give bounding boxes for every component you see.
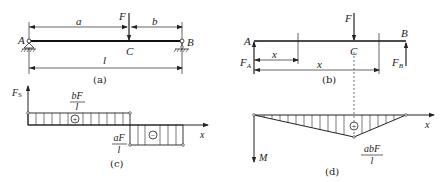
label-fb: FB	[391, 56, 404, 70]
label-point-b: B	[401, 27, 408, 39]
m-axis-label: M	[258, 152, 268, 163]
caption-c: (c)	[110, 158, 124, 169]
label-point-b: B	[187, 36, 194, 48]
caption-b: (b)	[322, 74, 336, 85]
plus-sign-icon: +	[71, 115, 79, 124]
svg-text:bF: bF	[71, 90, 83, 101]
figure-b: F A B C FA FB x x (b)	[239, 12, 408, 85]
x-axis-label: x	[199, 129, 205, 140]
svg-text:−: −	[151, 131, 156, 140]
svg-text:aF: aF	[113, 132, 125, 143]
figure-a: a b F A B C l (a)	[17, 10, 194, 85]
label-x-outer: x	[316, 58, 322, 70]
svg-text:+: +	[73, 115, 78, 124]
label-f: F	[344, 12, 352, 24]
shear-positive-value: bF l	[70, 90, 85, 112]
svg-text:+: +	[352, 122, 357, 131]
svg-text:l: l	[118, 144, 121, 155]
shear-negative-value: aF l	[112, 132, 127, 155]
label-x-inner: x	[271, 48, 277, 60]
fs-axis-label: FS	[11, 87, 22, 99]
caption-a: (a)	[93, 74, 107, 85]
label-point-c: C	[350, 45, 358, 57]
x-axis-label: x	[424, 119, 430, 130]
label-point-a: A	[17, 34, 25, 46]
label-b: b	[152, 15, 158, 27]
label-l: l	[103, 54, 106, 66]
label-point-a: A	[243, 35, 251, 47]
label-f: F	[118, 10, 126, 22]
svg-text:l: l	[76, 101, 79, 112]
label-fa: FA	[239, 56, 252, 70]
minus-sign-icon: −	[149, 131, 157, 140]
figure-d-moment-diagram: + M x abF l (d)	[253, 114, 434, 177]
plus-sign-icon: +	[350, 122, 358, 131]
label-a: a	[76, 15, 82, 27]
svg-text:l: l	[371, 155, 374, 166]
caption-d: (d)	[325, 166, 339, 177]
label-point-c: C	[126, 45, 134, 57]
svg-text:abF: abF	[364, 143, 381, 154]
figure-c-shear-diagram: + − FS x bF l aF l (c)	[11, 86, 208, 169]
moment-peak-value: abF l	[361, 143, 383, 166]
